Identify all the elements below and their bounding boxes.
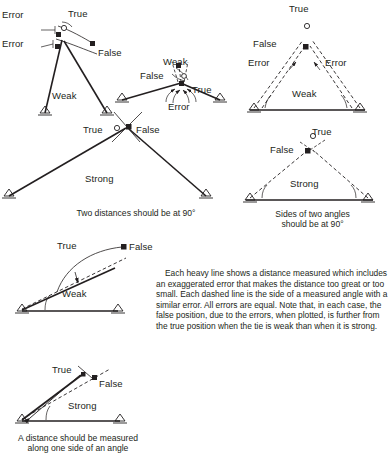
diagram-weak-two-angles [115,62,227,103]
diagram-weak-two-distances [38,22,114,115]
label-error-upper-d1: Error [2,9,24,20]
label-weak-d6: Weak [62,288,87,299]
explanation-paragraph: Each heavy line shows a distance measure… [156,268,388,332]
label-true-d7: True [52,364,72,375]
label-false-d6: False [129,241,153,252]
label-error-right-d3: Error [325,57,347,68]
label-true-d5: True [312,126,332,137]
caption-sides-two-angles-line1: Sides of two angles [250,209,375,220]
label-weak-d2: Weak [163,56,188,67]
label-weak-d3: Weak [292,88,317,99]
label-error-left-d3: Error [248,57,270,68]
label-false-d4: False [136,124,160,135]
caption-two-distances: Two distances should be at 90° [56,208,216,219]
label-strong-d7: Strong [68,400,97,411]
label-strong-d5: Strong [290,178,319,189]
label-strong-d4: Strong [85,173,114,184]
label-false-d3: False [253,38,277,49]
diagram-strong-angle-sides [243,133,375,202]
label-false-d2: False [140,70,164,81]
label-error-lower-d1: Error [2,38,24,49]
survey-diagram-canvas [0,0,389,462]
caption-distance-along-angle-line1: A distance should be measured [2,433,154,444]
diagram-strong-two-distances [2,112,213,198]
label-false-d5: False [270,144,294,155]
diagram-weak-distance-along-angle [15,244,127,313]
label-true-d6: True [57,240,77,251]
label-true-d4: True [83,124,103,135]
label-error-d2: Error [168,101,190,112]
label-weak-d1: Weak [52,90,77,101]
figure-page: Error Error True False Weak Weak False T… [0,0,389,462]
label-true-d3: True [289,3,309,14]
caption-distance-along-angle-line2: along one side of an angle [2,443,154,454]
label-true-d1: True [68,8,88,19]
label-false-d7: False [99,378,123,389]
caption-sides-two-angles-line2: should be at 90° [250,219,375,230]
label-false-d1: False [98,47,122,58]
label-true-d2: True [192,84,212,95]
